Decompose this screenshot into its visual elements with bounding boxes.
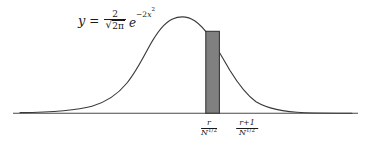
radicand: 2π bbox=[112, 20, 125, 31]
equation-fraction: 2 √ 2π bbox=[104, 10, 126, 32]
exp-base: e bbox=[129, 15, 136, 29]
equation-lhs: y bbox=[78, 14, 88, 27]
plot-canvas bbox=[0, 0, 371, 152]
tick-right-denominator: N1/2 bbox=[239, 129, 255, 138]
tick-left-denominator-exponent: 1/2 bbox=[208, 127, 217, 133]
square-root-icon: √ 2π bbox=[105, 20, 125, 31]
tick-right-denominator-base: N bbox=[239, 128, 246, 137]
gaussian-curve bbox=[20, 17, 352, 113]
tick-left-denominator: N1/2 bbox=[201, 129, 217, 138]
shaded-strip bbox=[206, 31, 220, 113]
exp-power: 2 bbox=[151, 6, 155, 12]
tick-left-denominator-base: N bbox=[201, 128, 208, 137]
radical-sign: √ bbox=[105, 20, 111, 31]
exponent: −2x2 bbox=[136, 10, 155, 19]
tick-r-over-sqrt-N: r N1/2 bbox=[201, 119, 217, 138]
equation-numerator: 2 bbox=[110, 10, 120, 19]
gaussian-strip-figure: y = 2 √ 2π e−2x2 r N1/2 r+1 N1/2 bbox=[0, 0, 371, 152]
equation-label: y = 2 √ 2π e−2x2 bbox=[78, 10, 155, 32]
tick-right-denominator-exponent: 1/2 bbox=[246, 127, 255, 133]
equation-denominator: √ 2π bbox=[104, 20, 126, 31]
equation-equals: = bbox=[88, 15, 103, 27]
equation-exponential: e−2x2 bbox=[127, 14, 155, 29]
tick-r-plus-1-over-sqrt-N: r+1 N1/2 bbox=[236, 119, 258, 138]
